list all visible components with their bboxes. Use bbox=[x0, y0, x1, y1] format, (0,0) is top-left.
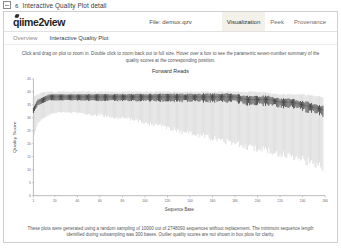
svg-text:120: 120 bbox=[165, 199, 171, 203]
main-content: Click and drag on plot to zoom in. Doubl… bbox=[4, 45, 337, 242]
svg-text:220: 220 bbox=[277, 199, 283, 203]
svg-text:100: 100 bbox=[142, 199, 148, 203]
brand-logo[interactable]: qiime2view bbox=[4, 17, 65, 27]
quality-plot-svg[interactable]: 0510152025303540451204060801001201401601… bbox=[10, 75, 331, 223]
sidebar-item-interactive-quality-plot[interactable]: Interactive Quality Plot bbox=[50, 35, 109, 41]
svg-text:10: 10 bbox=[27, 168, 31, 172]
brand-wordmark-text: qiime2view bbox=[13, 16, 65, 28]
header-tabs: Visualization Peek Provenance bbox=[222, 12, 337, 31]
svg-text:5: 5 bbox=[29, 181, 31, 185]
svg-text:40: 40 bbox=[76, 199, 80, 203]
svg-text:20: 20 bbox=[27, 142, 31, 146]
figure-title: Interactive Quality Plot detail bbox=[23, 2, 107, 9]
tab-provenance[interactable]: Provenance bbox=[289, 12, 331, 31]
svg-text:200: 200 bbox=[255, 199, 261, 203]
sidebar-item-overview[interactable]: Overview bbox=[13, 35, 38, 41]
svg-text:30: 30 bbox=[27, 116, 31, 120]
image-placeholder-icon bbox=[3, 1, 11, 9]
svg-text:Sequence Base: Sequence Base bbox=[165, 207, 194, 213]
svg-text:260: 260 bbox=[322, 199, 328, 203]
svg-text:160: 160 bbox=[210, 199, 216, 203]
chart-title: Forward Reads bbox=[10, 68, 331, 74]
svg-text:60: 60 bbox=[98, 199, 102, 203]
figure-caption: 6 Interactive Quality Plot detail bbox=[0, 0, 341, 11]
brand-wordmark: qiime2view bbox=[13, 17, 65, 27]
file-label: File: demux.qzv bbox=[149, 18, 192, 25]
tab-peek[interactable]: Peek bbox=[265, 12, 289, 31]
svg-text:15: 15 bbox=[27, 155, 31, 159]
figure-number: 6 bbox=[15, 2, 19, 9]
svg-text:45: 45 bbox=[27, 77, 31, 81]
svg-text:Quality Score: Quality Score bbox=[13, 121, 17, 153]
svg-text:140: 140 bbox=[187, 199, 193, 203]
svg-text:240: 240 bbox=[300, 199, 306, 203]
svg-text:0: 0 bbox=[29, 194, 31, 198]
svg-text:35: 35 bbox=[27, 103, 31, 107]
tab-visualization[interactable]: Visualization bbox=[222, 12, 266, 31]
footnote-text: These plots were generated using a rando… bbox=[10, 224, 331, 243]
app-window: qiime2view File: demux.qzv Visualization… bbox=[3, 11, 338, 243]
sub-nav: Overview Interactive Quality Plot bbox=[4, 32, 337, 45]
svg-text:180: 180 bbox=[232, 199, 238, 203]
instructions-text: Click and drag on plot to zoom in. Doubl… bbox=[10, 50, 331, 64]
svg-text:80: 80 bbox=[121, 199, 125, 203]
svg-text:1: 1 bbox=[32, 199, 34, 203]
quality-plot[interactable]: 0510152025303540451204060801001201401601… bbox=[10, 75, 331, 223]
leaf-icon bbox=[14, 13, 19, 18]
svg-text:40: 40 bbox=[27, 90, 31, 94]
svg-text:25: 25 bbox=[27, 129, 31, 133]
app-header: qiime2view File: demux.qzv Visualization… bbox=[4, 12, 337, 32]
svg-text:20: 20 bbox=[53, 199, 57, 203]
